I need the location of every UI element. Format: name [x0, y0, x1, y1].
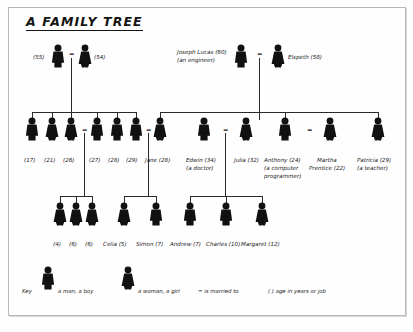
legend-man-label: a man, a boy [58, 288, 93, 294]
label-martha-surname: Prentice (22) [309, 165, 345, 171]
label-charles: Charles (10) [206, 241, 240, 247]
figure-grandfather-left [52, 45, 64, 68]
label-joseph-lucas-job: (an engineer) [177, 57, 215, 63]
figure-anthony [279, 118, 291, 141]
label-julia: Julia (32) [234, 157, 259, 163]
figure-andrew [184, 203, 196, 226]
figure-parent-26 [65, 118, 78, 141]
label-grandmother-left-age: (54) [94, 54, 105, 60]
figure-grandmother-left [79, 45, 92, 68]
legend-age: ( ) age in years or job [268, 288, 326, 294]
figure-jane [154, 118, 167, 141]
label-grandfather-left-age: (55) [33, 54, 44, 60]
figure-charles [220, 203, 232, 226]
marriage-symbol-lucas: = [257, 50, 262, 58]
label-parent-27: (27) [89, 157, 100, 163]
marriage-symbol-fam3: = [223, 126, 228, 134]
legend-married: = is married to [198, 288, 239, 294]
label-andrew: Andrew (7) [170, 241, 201, 247]
label-child-6b: (6) [85, 241, 93, 247]
figure-edwin [198, 118, 210, 141]
marriage-symbol-fam1: = [82, 126, 87, 134]
figure-elspeth [272, 45, 285, 68]
figure-child-4 [54, 203, 67, 226]
marriage-symbol-fam4: = [307, 126, 312, 134]
label-simon: Simon (7) [136, 241, 163, 247]
label-patricia: Patricia (29) [357, 157, 391, 163]
figure-child-6b [86, 203, 99, 226]
figure-martha [324, 118, 337, 141]
marriage-symbol-gp-left: = [69, 50, 74, 58]
key-figure-man [42, 267, 54, 290]
label-anthony-job: (a computer [264, 165, 298, 171]
label-parent-28: (28) [108, 157, 119, 163]
label-anthony: Anthony (24) [264, 157, 301, 163]
figure-child-6a [70, 203, 83, 226]
legend-woman-label: a woman, a girl [138, 288, 180, 294]
label-margaret: Margaret (12) [241, 241, 280, 247]
label-joseph-lucas-name: Joseph Lucas (60) [177, 49, 227, 55]
label-parent-17: (17) [24, 157, 35, 163]
marriage-symbol-fam2: = [146, 126, 151, 134]
label-anthony-job2: programmer) [264, 173, 301, 179]
label-child-4: (4) [53, 241, 61, 247]
label-parent-26: (26) [63, 157, 74, 163]
key-figure-woman [122, 267, 135, 290]
figure-parent-21 [46, 118, 59, 141]
label-celia: Celia (5) [103, 241, 127, 247]
label-martha: Martha [317, 157, 337, 163]
figure-parent-28 [111, 118, 123, 141]
label-patricia-job: (a teacher) [357, 165, 388, 171]
figure-celia [118, 203, 131, 226]
label-parent-21: (21) [44, 157, 55, 163]
label-edwin-job: (a doctor) [186, 165, 214, 171]
legend-title: Key [22, 288, 32, 294]
figure-parent-27 [91, 118, 103, 141]
figure-margaret [256, 203, 269, 226]
family-tree-page: A FAMILY TREE [0, 0, 413, 332]
figure-patricia [372, 118, 385, 141]
figure-parent-17 [26, 118, 38, 141]
figure-parent-29 [130, 118, 142, 141]
label-elspeth: Elspeth (58) [288, 54, 322, 60]
figure-simon [150, 203, 162, 226]
label-edwin: Edwin (34) [186, 157, 216, 163]
label-parent-29: (29) [126, 157, 137, 163]
label-child-6a: (6) [69, 241, 77, 247]
figure-joseph-lucas [235, 45, 247, 68]
figure-julia [240, 118, 253, 141]
label-jane: Jane (28) [145, 157, 170, 163]
